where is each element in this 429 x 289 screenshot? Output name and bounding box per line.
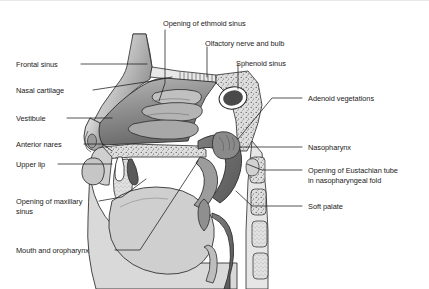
label-adenoid-vegetations: Adenoid vegetations <box>308 94 374 103</box>
label-opening-of-eustachian-tube-2: in nasopharyngeal fold <box>308 176 381 185</box>
label-soft-palate: Soft palate <box>308 202 343 211</box>
label-vestibule: Vestibule <box>16 114 46 123</box>
label-olfactory-nerve-and-bulb: Olfactory nerve and bulb <box>205 39 284 48</box>
label-opening-of-maxillary-sinus: Opening of maxillary <box>16 197 82 206</box>
adenoid-vegetations-tissue <box>212 132 240 159</box>
label-upper-lip: Upper lip <box>16 160 45 169</box>
label-nasal-cartilage: Nasal cartilage <box>16 86 64 95</box>
label-opening-of-maxillary-sinus-2: sinus <box>16 207 33 216</box>
eustachian-tube-opening <box>246 159 259 176</box>
label-sphenoid-sinus: Sphenoid sinus <box>236 59 286 68</box>
leader-soft-palate <box>236 191 302 206</box>
label-nasopharynx: Nasopharynx <box>308 143 351 152</box>
label-frontal-sinus: Frontal sinus <box>16 60 58 69</box>
upper-lip-shape <box>82 158 104 185</box>
label-anterior-nares: Anterior nares <box>16 140 62 149</box>
label-mouth-and-oropharynx: Mouth and oropharynx <box>16 246 89 255</box>
label-opening-of-eustachian-tube: Opening of Eustachian tube <box>308 166 398 175</box>
label-opening-of-ethmoid-sinus: Opening of ethmoid sinus <box>163 19 246 28</box>
incisor-tooth <box>115 157 124 181</box>
